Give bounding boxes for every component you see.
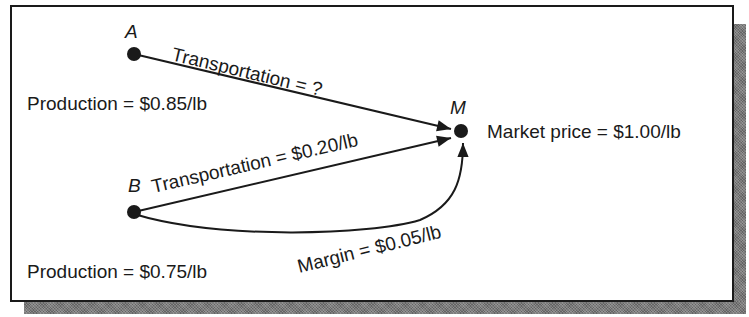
node-a-label: A (125, 22, 138, 41)
market-price-label: Market price = $1.00/lb (487, 122, 681, 141)
production-a-label: Production = $0.85/lb (27, 94, 207, 113)
node-m-dot (454, 124, 468, 138)
node-m-label: M (450, 98, 466, 117)
production-b-label: Production = $0.75/lb (27, 262, 207, 281)
node-b-dot (127, 205, 141, 219)
node-a-dot (127, 47, 141, 61)
node-b-label: B (128, 176, 141, 195)
